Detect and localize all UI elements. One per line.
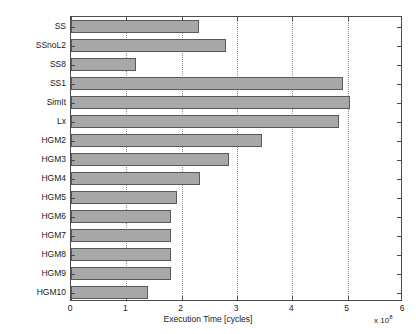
bar-row bbox=[71, 153, 402, 166]
bar-hgm8[interactable] bbox=[71, 248, 171, 261]
x-tick-label-0: 0 bbox=[68, 303, 73, 313]
y-axis-label-ss: SS bbox=[0, 21, 66, 31]
y-tick-mark-right-8 bbox=[397, 179, 401, 180]
bar-ss1[interactable] bbox=[71, 77, 343, 90]
y-tick-mark-right-7 bbox=[397, 160, 401, 161]
y-tick-mark-left-10 bbox=[71, 217, 75, 218]
y-tick-mark-right-6 bbox=[397, 141, 401, 142]
bar-row bbox=[71, 191, 402, 204]
x-tick-label-1: 1 bbox=[123, 303, 128, 313]
y-axis-label-ss1: SS1 bbox=[0, 78, 66, 88]
y-tick-mark-right-14 bbox=[397, 293, 401, 294]
y-tick-mark-right-4 bbox=[397, 103, 401, 104]
bar-lx[interactable] bbox=[71, 115, 339, 128]
y-tick-mark-right-9 bbox=[397, 198, 401, 199]
y-tick-mark-left-13 bbox=[71, 274, 75, 275]
x-tick-label-6: 6 bbox=[400, 303, 405, 313]
y-axis-label-hgm10: HGM10 bbox=[0, 287, 66, 297]
y-tick-mark-left-1 bbox=[71, 46, 75, 47]
y-tick-mark-left-8 bbox=[71, 179, 75, 180]
y-tick-mark-right-10 bbox=[397, 217, 401, 218]
x-tick-label-2: 2 bbox=[178, 303, 183, 313]
x-multiplier-text: x 10 bbox=[374, 316, 389, 325]
y-axis-label-lx: Lx bbox=[0, 116, 66, 126]
y-tick-mark-left-6 bbox=[71, 141, 75, 142]
y-axis-label-hgm4: HGM4 bbox=[0, 173, 66, 183]
y-tick-mark-left-9 bbox=[71, 198, 75, 199]
x-axis-exponent-multiplier: x 108 bbox=[374, 314, 392, 325]
bar-hgm9[interactable] bbox=[71, 267, 171, 280]
bar-hgm5[interactable] bbox=[71, 191, 177, 204]
y-tick-mark-right-0 bbox=[397, 27, 401, 28]
bar-row bbox=[71, 20, 402, 33]
y-tick-mark-left-12 bbox=[71, 255, 75, 256]
bar-row bbox=[71, 39, 402, 52]
x-tick-label-5: 5 bbox=[344, 303, 349, 313]
bar-hgm3[interactable] bbox=[71, 153, 229, 166]
y-tick-mark-left-4 bbox=[71, 103, 75, 104]
y-tick-mark-left-5 bbox=[71, 122, 75, 123]
y-axis-label-ssnol2: SSnoL2 bbox=[0, 40, 66, 50]
bar-hgm7[interactable] bbox=[71, 229, 171, 242]
bar-row bbox=[71, 58, 402, 71]
y-tick-mark-left-3 bbox=[71, 84, 75, 85]
y-tick-mark-right-11 bbox=[397, 236, 401, 237]
bar-row bbox=[71, 77, 402, 90]
bar-simit[interactable] bbox=[71, 96, 350, 109]
bar-ss8[interactable] bbox=[71, 58, 136, 71]
y-tick-mark-left-7 bbox=[71, 160, 75, 161]
bar-chart-figure: SSSSnoL2SS8SS1SimItLxHGM2HGM3HGM4HGM5HGM… bbox=[0, 0, 416, 334]
bar-row bbox=[71, 134, 402, 147]
bar-row bbox=[71, 286, 402, 299]
y-tick-mark-left-0 bbox=[71, 27, 75, 28]
y-axis-label-hgm9: HGM9 bbox=[0, 268, 66, 278]
x-exponent-text: 8 bbox=[389, 314, 392, 320]
y-axis-label-hgm8: HGM8 bbox=[0, 249, 66, 259]
bar-row bbox=[71, 115, 402, 128]
y-tick-mark-right-5 bbox=[397, 122, 401, 123]
y-tick-mark-right-2 bbox=[397, 65, 401, 66]
y-axis-label-simit: SimIt bbox=[0, 97, 66, 107]
y-tick-mark-right-1 bbox=[397, 46, 401, 47]
plot-area bbox=[70, 16, 402, 301]
bar-hgm4[interactable] bbox=[71, 172, 200, 185]
bar-hgm2[interactable] bbox=[71, 134, 262, 147]
bar-hgm10[interactable] bbox=[71, 286, 148, 299]
y-axis-label-hgm6: HGM6 bbox=[0, 211, 66, 221]
y-axis-label-ss8: SS8 bbox=[0, 59, 66, 69]
bar-row bbox=[71, 229, 402, 242]
bar-ssnol2[interactable] bbox=[71, 39, 226, 52]
y-axis-label-hgm7: HGM7 bbox=[0, 230, 66, 240]
y-tick-mark-right-13 bbox=[397, 274, 401, 275]
bar-row bbox=[71, 96, 402, 109]
bar-row bbox=[71, 172, 402, 185]
y-axis-label-hgm3: HGM3 bbox=[0, 154, 66, 164]
x-axis-title: Execution Time [cycles] bbox=[0, 314, 416, 324]
bar-row bbox=[71, 210, 402, 223]
bar-row bbox=[71, 267, 402, 280]
y-tick-mark-left-14 bbox=[71, 293, 75, 294]
y-tick-mark-left-11 bbox=[71, 236, 75, 237]
y-tick-mark-right-12 bbox=[397, 255, 401, 256]
y-axis-label-hgm5: HGM5 bbox=[0, 192, 66, 202]
y-tick-mark-left-2 bbox=[71, 65, 75, 66]
y-axis-label-hgm2: HGM2 bbox=[0, 135, 66, 145]
x-tick-label-3: 3 bbox=[234, 303, 239, 313]
x-tick-label-4: 4 bbox=[289, 303, 294, 313]
bar-hgm6[interactable] bbox=[71, 210, 171, 223]
bar-ss[interactable] bbox=[71, 20, 199, 33]
bar-row bbox=[71, 248, 402, 261]
y-tick-mark-right-3 bbox=[397, 84, 401, 85]
